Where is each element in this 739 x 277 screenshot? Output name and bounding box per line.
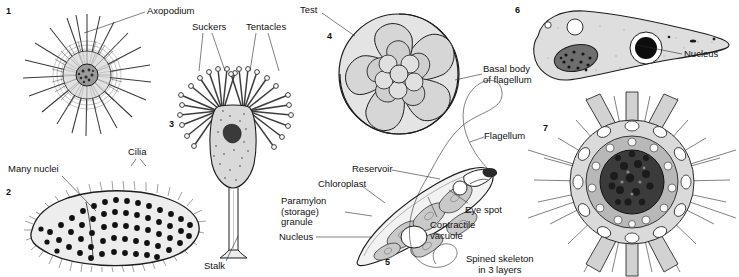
label-chloroplast: Chloroplast bbox=[318, 179, 366, 190]
label-flagellum: Flagellum bbox=[484, 131, 525, 142]
figure-3-suctorian bbox=[178, 66, 293, 271]
label-axopodium: Axopodium bbox=[147, 6, 195, 17]
foraminiferan-drawing bbox=[336, 8, 462, 136]
label-many-nuclei: Many nuclei bbox=[8, 164, 59, 175]
figure-7-radiolarian bbox=[528, 92, 736, 276]
figure-number-7: 7 bbox=[543, 123, 548, 133]
label-paramylon-granule: Paramylon (storage) granule bbox=[281, 196, 326, 228]
label-contractile-vacuole: Contractile vacuole bbox=[430, 220, 475, 241]
figure-number-3: 3 bbox=[169, 119, 174, 129]
figure-number-6: 6 bbox=[515, 5, 520, 15]
leader-cilia-right bbox=[140, 159, 146, 166]
label-eye-spot: Eye spot bbox=[465, 205, 502, 216]
radiolarian-drawing bbox=[528, 92, 736, 276]
leader-cilia-left bbox=[131, 159, 136, 166]
figure-4-foraminiferan bbox=[336, 8, 462, 136]
figure-number-4: 4 bbox=[327, 31, 332, 41]
label-stalk: Stalk bbox=[204, 261, 225, 272]
suctorian-drawing bbox=[178, 66, 293, 271]
heliozoan-drawing bbox=[22, 16, 152, 134]
figure-number-1: 1 bbox=[6, 6, 11, 16]
label-suckers: Suckers bbox=[192, 22, 226, 33]
figure-1-heliozoan bbox=[22, 16, 152, 134]
label-spined-skeleton: Spined skeleton in 3 layers bbox=[466, 254, 534, 275]
leader-flagellum bbox=[470, 137, 484, 142]
protist-plate: 1 2 3 4 5 6 7 Axopodium Many nuclei Cili… bbox=[0, 0, 739, 277]
label-nucleus-euglena: Nucleus bbox=[279, 232, 313, 243]
label-tentacles: Tentacles bbox=[246, 22, 286, 33]
label-nucleus-fig6: Nucleus bbox=[684, 49, 718, 60]
figure-number-2: 2 bbox=[6, 187, 11, 197]
label-reservoir: Reservoir bbox=[352, 164, 393, 175]
label-basal-body-of-flagellum: Basal body of flagellum bbox=[483, 64, 532, 85]
figure-number-5: 5 bbox=[385, 257, 390, 267]
label-cilia: Cilia bbox=[128, 147, 146, 158]
label-test: Test bbox=[300, 5, 317, 16]
